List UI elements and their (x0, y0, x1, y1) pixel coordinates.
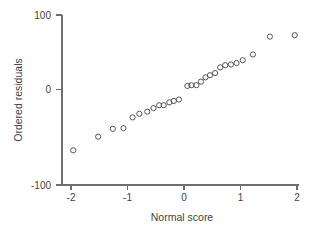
x-tick-label--1: -1 (123, 192, 132, 203)
scatter-point (145, 109, 150, 114)
x-tick-label-1: 1 (238, 192, 244, 203)
y-tick-label-100: 100 (34, 10, 51, 21)
scatter-point (218, 65, 223, 70)
scatter-point (96, 134, 101, 139)
scatter-point (137, 111, 142, 116)
x-tick-label-2: 2 (294, 192, 300, 203)
chart-canvas: -1000100 -2-1012 Normal score Ordered re… (0, 0, 316, 232)
scatter-point (228, 62, 233, 67)
scatter-point-group (71, 33, 298, 153)
scatter-point (176, 97, 181, 102)
scatter-point (194, 83, 199, 88)
y-axis-ticks (56, 15, 62, 185)
x-axis-ticks (71, 185, 297, 190)
y-axis-title: Ordered residuals (12, 58, 24, 141)
scatter-point (240, 58, 245, 63)
scatter-point (151, 105, 156, 110)
scatter-point (110, 126, 115, 131)
y-tick-label-0: 0 (45, 84, 51, 95)
scatter-point (71, 148, 76, 153)
scatter-point (292, 33, 297, 38)
normal-probability-plot-figure: -1000100 -2-1012 Normal score Ordered re… (0, 0, 316, 232)
x-axis-title: Normal score (151, 211, 214, 223)
x-tick-label--2: -2 (67, 192, 76, 203)
scatter-point (267, 34, 272, 39)
y-axis-tick-labels: -1000100 (31, 10, 51, 191)
scatter-point (130, 115, 135, 120)
scatter-point (223, 63, 228, 68)
x-axis-tick-labels: -2-1012 (67, 192, 301, 203)
x-tick-label-0: 0 (181, 192, 187, 203)
scatter-point (207, 73, 212, 78)
scatter-point (250, 52, 255, 57)
y-tick-label--100: -100 (31, 180, 51, 191)
scatter-point (234, 60, 239, 65)
scatter-point (198, 79, 203, 84)
scatter-point (212, 70, 217, 75)
scatter-point (121, 126, 126, 131)
